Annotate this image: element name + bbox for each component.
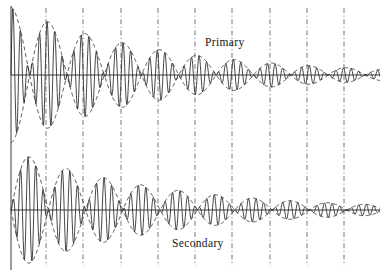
envelope-primary-upper — [11, 7, 380, 75]
primary-trace-label: Primary — [205, 36, 245, 48]
carrier-waves-group — [11, 9, 380, 261]
tie-lines-group — [46, 8, 344, 266]
carrier-primary — [11, 9, 380, 133]
figure-caption — [0, 266, 388, 273]
axes-group — [11, 6, 380, 270]
waveform-plot-svg — [0, 0, 388, 273]
envelope-secondary-upper — [11, 157, 380, 210]
envelope-primary-lower — [11, 75, 380, 143]
envelopes-group — [11, 7, 380, 263]
coupled-oscillation-figure: Primary Secondary — [0, 0, 388, 273]
secondary-trace-label: Secondary — [172, 237, 224, 249]
